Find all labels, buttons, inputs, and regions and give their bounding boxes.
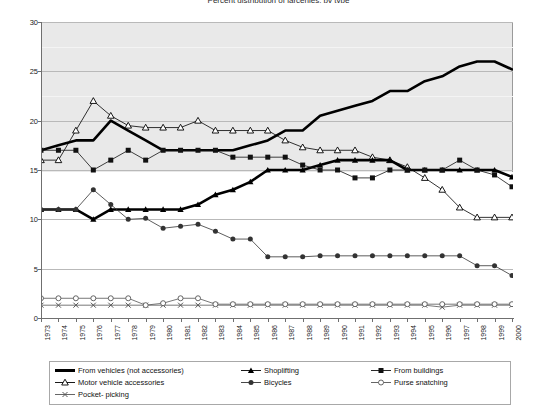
x-tick-mark [181,318,182,322]
legend-item-open-triangle[interactable]: Motor vehicle accessories [54,377,164,388]
y-tick-mark [38,219,41,220]
x-tick-1987: 1987 [288,325,295,341]
x-tick-mark [215,318,216,322]
legend-label: Purse snatching [394,378,448,387]
x-tick-mark [250,318,251,322]
legend-item-open-circle[interactable]: Purse snatching [370,377,448,388]
legend-label: Bicycles [264,378,292,387]
y-tick-mark [38,269,41,270]
legend-item-filled-circle[interactable]: Bicycles [240,377,292,388]
x-tick-1999: 1999 [498,325,505,341]
legend-marker-filled-square [370,365,392,376]
x-tick-1984: 1984 [236,325,243,341]
legend-item-x-cross[interactable]: Pocket- picking [54,389,129,400]
x-tick-1978: 1978 [131,325,138,341]
x-tick-1998: 1998 [480,325,487,341]
x-tick-1996: 1996 [445,325,452,341]
legend-label: Shoplifting [264,366,299,375]
x-tick-1983: 1983 [218,325,225,341]
y-tick-25: 25 [30,67,38,76]
x-tick-mark [268,318,269,322]
x-tick-1981: 1981 [184,325,191,341]
x-tick-2000: 2000 [515,325,522,341]
x-tick-1986: 1986 [271,325,278,341]
x-tick-1977: 1977 [114,325,121,341]
y-tick-10: 10 [30,215,38,224]
x-tick-mark [146,318,147,322]
x-tick-mark [495,318,496,322]
y-tick-15: 15 [30,166,38,175]
x-tick-1991: 1991 [358,325,365,341]
y-tick-mark [38,22,41,23]
x-tick-mark [128,318,129,322]
x-tick-1997: 1997 [463,325,470,341]
legend-label: Pocket- picking [78,390,129,399]
legend-item-thick-line[interactable]: From vehicles (not accessories) [54,365,184,376]
x-tick-mark [303,318,304,322]
chart-title: Percent distribution of larcenies, by ty… [0,0,557,3]
x-tick-1985: 1985 [253,325,260,341]
x-tick-mark [338,318,339,322]
legend-label: Motor vehicle accessories [78,378,164,387]
x-tick-1993: 1993 [393,325,400,341]
x-tick-mark [93,318,94,322]
x-tick-1992: 1992 [375,325,382,341]
x-tick-1988: 1988 [306,325,313,341]
x-tick-1975: 1975 [79,325,86,341]
x-tick-1979: 1979 [149,325,156,341]
x-tick-mark [407,318,408,322]
x-tick-mark [442,318,443,322]
legend-marker-open-triangle [54,377,76,388]
x-tick-mark [355,318,356,322]
y-tick-mark [38,71,41,72]
x-tick-mark [285,318,286,322]
x-tick-mark [233,318,234,322]
y-tick-mark [38,170,41,171]
legend-label: From vehicles (not accessories) [78,366,184,375]
series-canvas [41,22,513,318]
chart-page: Percent distribution of larcenies, by ty… [0,0,557,414]
legend-marker-thick-line [54,365,76,376]
x-tick-mark [76,318,77,322]
x-tick-1974: 1974 [61,325,68,341]
x-tick-1976: 1976 [96,325,103,341]
x-tick-1980: 1980 [166,325,173,341]
legend-label: From buildings [394,366,443,375]
legend-item-filled-triangle[interactable]: Shoplifting [240,365,299,376]
chart-legend: From vehicles (not accessories)Motor veh… [49,361,511,405]
x-tick-1990: 1990 [341,325,348,341]
x-tick-mark [198,318,199,322]
x-tick-mark [163,318,164,322]
y-axis [41,22,42,319]
x-tick-mark [460,318,461,322]
x-tick-mark [512,318,513,322]
legend-item-filled-square[interactable]: From buildings [370,365,443,376]
x-tick-mark [41,318,42,322]
x-tick-mark [58,318,59,322]
x-tick-mark [390,318,391,322]
legend-marker-x-cross [54,389,76,400]
plot-area [41,22,513,318]
y-tick-20: 20 [30,116,38,125]
x-tick-mark [372,318,373,322]
series-0 [41,61,512,150]
legend-marker-filled-triangle [240,365,262,376]
x-tick-1982: 1982 [201,325,208,341]
x-tick-mark [477,318,478,322]
x-tick-mark [425,318,426,322]
series-5 [41,148,513,190]
x-tick-1995: 1995 [428,325,435,341]
series-4 [41,187,513,278]
legend-marker-open-circle [370,377,392,388]
x-tick-1994: 1994 [410,325,417,341]
x-tick-mark [320,318,321,322]
x-tick-mark [111,318,112,322]
y-tick-mark [38,121,41,122]
x-tick-1973: 1973 [44,325,51,341]
x-tick-1989: 1989 [323,325,330,341]
legend-marker-filled-circle [240,377,262,388]
y-tick-30: 30 [30,18,38,27]
